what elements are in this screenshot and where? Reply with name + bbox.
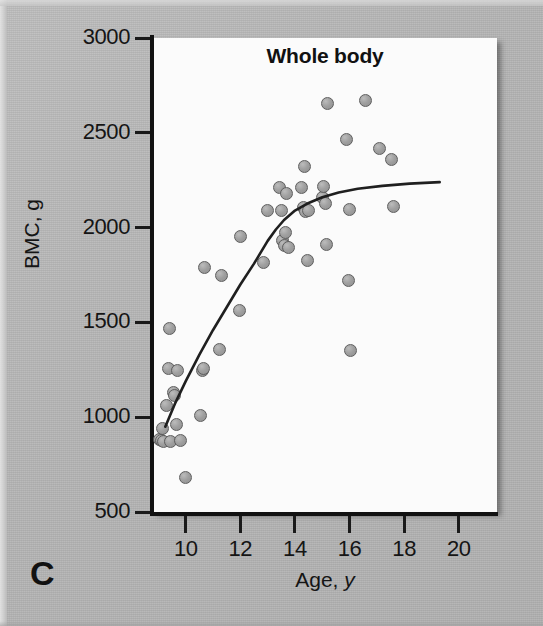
scatter-point [343, 203, 356, 216]
scatter-point [163, 322, 176, 335]
scatter-point [156, 422, 169, 435]
scatter-point [302, 204, 315, 217]
scatter-point [233, 304, 246, 317]
scatter-points-layer [0, 0, 543, 626]
scatter-point [344, 344, 357, 357]
scatter-point [319, 197, 332, 210]
scatter-point [359, 94, 372, 107]
scatter-point [301, 254, 314, 267]
scatter-point [213, 343, 226, 356]
scatter-point [321, 97, 334, 110]
scatter-point [179, 471, 192, 484]
scatter-point [387, 200, 400, 213]
scatter-point [170, 418, 183, 431]
scatter-point [275, 204, 288, 217]
figure-panel: Whole body 50010001500200025003000 BMC, … [0, 0, 543, 626]
scatter-point [280, 187, 293, 200]
scatter-point [373, 142, 386, 155]
scatter-point [340, 133, 353, 146]
scatter-point [385, 153, 398, 166]
scatter-point [168, 389, 181, 402]
scatter-point [295, 181, 308, 194]
scatter-point [234, 230, 247, 243]
scatter-point [198, 261, 211, 274]
scatter-point [317, 180, 330, 193]
scatter-point [171, 364, 184, 377]
scatter-point [257, 256, 270, 269]
scatter-point [298, 160, 311, 173]
panel-letter: C [30, 554, 55, 593]
scatter-point [282, 241, 295, 254]
scatter-point [261, 204, 274, 217]
scatter-point [320, 238, 333, 251]
scatter-point [174, 434, 187, 447]
scatter-point [279, 226, 292, 239]
scatter-point [194, 409, 207, 422]
scatter-point [215, 269, 228, 282]
scatter-point [342, 274, 355, 287]
